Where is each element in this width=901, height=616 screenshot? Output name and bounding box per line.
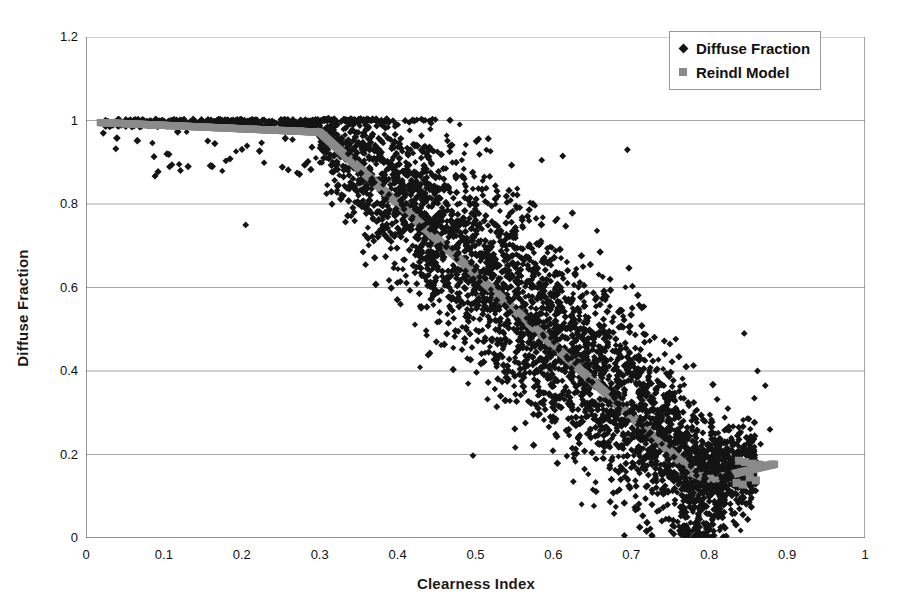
plot-area [86,37,865,538]
y-tick-label: 0.6 [30,280,78,295]
plot-svg [86,37,865,538]
y-tick-label: 1 [30,113,78,128]
x-tick-label: 0.8 [684,547,734,562]
legend-item-diffuse-fraction[interactable]: Diffuse Fraction [677,36,810,60]
y-tick-label: 1.2 [30,29,78,44]
y-tick-label: 0.8 [30,196,78,211]
x-tick-label: 1 [840,547,890,562]
x-tick-label: 0.9 [762,547,812,562]
x-tick-label: 0.5 [451,547,501,562]
x-tick-label: 0.1 [139,547,189,562]
x-tick-label: 0.2 [217,547,267,562]
x-tick-label: 0.3 [295,547,345,562]
x-axis-title: Clearness Index [86,575,866,592]
scatter-chart: Diffuse Fraction Clearness Index 00.20.4… [0,0,901,616]
chart-legend: Diffuse Fraction Reindl Model [669,31,821,90]
y-axis-title: Diffuse Fraction [8,0,38,616]
x-tick-label: 0 [61,547,111,562]
square-marker-icon [677,68,689,76]
legend-label-reindl-model: Reindl Model [696,64,789,81]
x-tick-label: 0.4 [373,547,423,562]
y-tick-label: 0 [30,530,78,545]
x-tick-label: 0.7 [606,547,656,562]
y-tick-label: 0.4 [30,363,78,378]
legend-item-reindl-model[interactable]: Reindl Model [677,60,810,84]
legend-label-diffuse-fraction: Diffuse Fraction [696,40,810,57]
x-tick-label: 0.6 [528,547,578,562]
diamond-marker-icon [677,45,689,52]
y-tick-label: 0.2 [30,447,78,462]
